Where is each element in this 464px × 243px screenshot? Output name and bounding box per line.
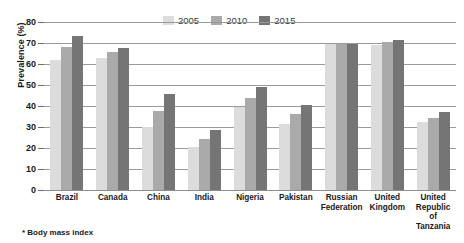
bar-united-kingdom-2010[interactable] — [382, 42, 393, 190]
bar-nigeria-2015[interactable] — [256, 87, 267, 190]
bar-group-china — [136, 22, 182, 190]
x-axis-label-line: Federation — [320, 203, 364, 213]
bar-group-russian-federation — [319, 22, 365, 190]
bar-nigeria-2010[interactable] — [245, 98, 256, 190]
bar-russian-federation-2005[interactable] — [325, 44, 336, 190]
bar-brazil-2015[interactable] — [72, 36, 83, 190]
x-axis-label-1: Canada — [90, 193, 136, 231]
bar-india-2015[interactable] — [210, 130, 221, 190]
x-axis-label-8: UnitedRepublicof Tanzania — [410, 193, 456, 231]
x-axis-label-3: India — [181, 193, 227, 231]
bar-nigeria-2005[interactable] — [234, 107, 245, 190]
y-tick-label-40: 40 — [16, 101, 36, 111]
tickmark-0 — [38, 190, 44, 191]
x-axis-label-line: of Tanzania — [411, 212, 455, 231]
bar-group-united-republic-of-tanzania — [410, 22, 456, 190]
bar-group-canada — [90, 22, 136, 190]
x-axis-label-line: United — [365, 193, 409, 203]
x-axis-label-4: Nigeria — [227, 193, 273, 231]
bar-united-republic-of-tanzania-2010[interactable] — [428, 118, 439, 190]
bar-groups — [44, 22, 456, 190]
x-axis-label-line: Canada — [91, 193, 135, 203]
x-axis-label-line: United — [411, 193, 455, 203]
bar-brazil-2010[interactable] — [61, 47, 72, 190]
x-axis-label-2: China — [136, 193, 182, 231]
x-axis-label-line: Pakistan — [274, 193, 318, 203]
bar-united-republic-of-tanzania-2005[interactable] — [417, 122, 428, 190]
bar-chart: Prevalence (%) 2005 2010 2015 8070605040… — [0, 0, 464, 243]
x-axis-label-line: China — [137, 193, 181, 203]
bar-india-2005[interactable] — [188, 147, 199, 190]
y-tick-label-70: 70 — [16, 38, 36, 48]
bar-group-india — [181, 22, 227, 190]
bar-canada-2005[interactable] — [96, 58, 107, 190]
x-axis-label-line: Russian — [320, 193, 364, 203]
y-tick-label-80: 80 — [16, 17, 36, 27]
y-tick-label-30: 30 — [16, 122, 36, 132]
y-tick-label-20: 20 — [16, 143, 36, 153]
bar-canada-2015[interactable] — [118, 48, 129, 190]
bar-pakistan-2005[interactable] — [279, 124, 290, 190]
bar-russian-federation-2010[interactable] — [336, 44, 347, 190]
bar-pakistan-2010[interactable] — [290, 114, 301, 190]
x-axis-label-line: Republic — [411, 203, 455, 213]
x-axis-label-line: Nigeria — [228, 193, 272, 203]
x-axis-label-0: Brazil — [44, 193, 90, 231]
x-axis-label-5: Pakistan — [273, 193, 319, 231]
y-tick-label-0: 0 — [16, 185, 36, 195]
gridline-0 — [44, 190, 456, 191]
x-axis-label-line: Kingdom — [365, 203, 409, 213]
bar-group-brazil — [44, 22, 90, 190]
x-axis-labels: BrazilCanadaChinaIndiaNigeriaPakistanRus… — [44, 193, 456, 231]
bar-united-kingdom-2015[interactable] — [393, 40, 404, 190]
bar-group-pakistan — [273, 22, 319, 190]
bar-brazil-2005[interactable] — [50, 60, 61, 190]
x-axis-label-6: RussianFederation — [319, 193, 365, 231]
x-axis-label-7: UnitedKingdom — [364, 193, 410, 231]
bar-united-republic-of-tanzania-2015[interactable] — [439, 112, 450, 190]
plot-area: 80706050403020100 — [44, 22, 456, 190]
bar-pakistan-2015[interactable] — [301, 105, 312, 190]
x-axis-label-line: Brazil — [45, 193, 89, 203]
bar-group-united-kingdom — [364, 22, 410, 190]
x-axis-label-line: India — [182, 193, 226, 203]
bar-canada-2010[interactable] — [107, 52, 118, 190]
chart-footnote: * Body mass index — [22, 228, 93, 237]
bar-china-2015[interactable] — [164, 94, 175, 190]
y-tick-label-10: 10 — [16, 164, 36, 174]
bar-china-2010[interactable] — [153, 111, 164, 190]
y-tick-label-50: 50 — [16, 80, 36, 90]
bar-india-2010[interactable] — [199, 139, 210, 190]
bar-united-kingdom-2005[interactable] — [371, 45, 382, 190]
y-tick-label-60: 60 — [16, 59, 36, 69]
bar-russian-federation-2015[interactable] — [347, 44, 358, 190]
bar-china-2005[interactable] — [142, 127, 153, 190]
bar-group-nigeria — [227, 22, 273, 190]
